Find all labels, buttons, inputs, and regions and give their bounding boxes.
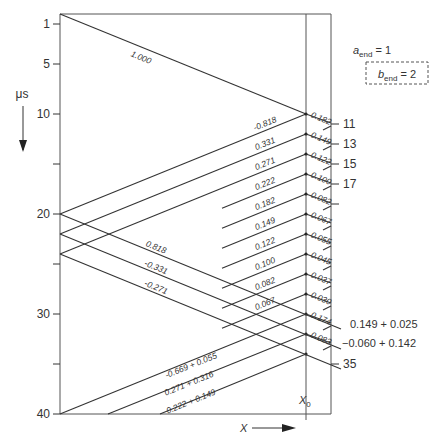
- time-tick-label: 10: [37, 107, 51, 121]
- time-arrow-icon: [19, 140, 27, 152]
- side-note: −0.060 + 0.142: [342, 337, 416, 349]
- transmitted-arrow: [323, 286, 331, 290]
- node-value-label: 0.182: [309, 110, 333, 127]
- reflected-wave-label: 0.149: [253, 215, 277, 232]
- transmitted-arrow: [323, 326, 331, 330]
- right-tick-label: 11: [343, 117, 356, 131]
- b-end-label: bend = 2: [378, 68, 416, 83]
- reflected-wave-label: 0.122: [253, 235, 277, 252]
- node-value-label: 0.082: [309, 190, 333, 207]
- reflected-wave-label: 0.182: [253, 195, 277, 212]
- node-value-label: 0.055: [309, 230, 333, 247]
- reflected-wave-label: 0.100: [253, 255, 277, 272]
- transmitted-arrow: [323, 186, 331, 190]
- reflected-wave-label: 0.222: [253, 175, 277, 192]
- transmitted-arrow: [323, 146, 331, 150]
- node-value-label: 0.174: [309, 310, 333, 327]
- node-value-label: 0.122: [309, 150, 333, 167]
- time-tick-label: 5: [43, 57, 50, 71]
- transmitted-arrow: [323, 266, 331, 270]
- transmitted-arrow: [323, 166, 331, 170]
- time-tick-label: 1: [43, 17, 50, 31]
- transmitted-arrow: [323, 246, 331, 250]
- a-end-label: aend = 1: [353, 44, 391, 59]
- node-value-label: 0.045: [309, 250, 333, 267]
- reflected-wave-label: 0.271: [253, 155, 277, 172]
- right-tick-label: 17: [343, 177, 357, 191]
- lattice-diagram: 1510203040μs11131517351.000-0.8180.3310.…: [0, 0, 437, 446]
- transmitted-arrow: [323, 206, 331, 210]
- time-unit-label: μs: [16, 87, 29, 101]
- right-tick-label: 13: [343, 137, 357, 151]
- incident-wave-label: 1.000: [129, 49, 153, 66]
- node-value-label: 0.100: [309, 170, 333, 187]
- right-tick-label: 15: [343, 157, 357, 171]
- side-note: 0.149 + 0.025: [350, 318, 418, 330]
- reflected-wave-label: 0.082: [253, 275, 277, 292]
- x-axis-arrow-icon: [282, 424, 296, 432]
- node-value-label: 0.149: [309, 130, 333, 147]
- right-tick-label: 35: [343, 357, 357, 371]
- time-tick-label: 30: [37, 307, 51, 321]
- node-value-label: 0.030: [309, 290, 333, 307]
- node-value-label: 0.083: [309, 330, 333, 347]
- reflected-wave-label: 0.331: [253, 135, 277, 152]
- time-tick-label: 20: [37, 207, 51, 221]
- transmitted-arrow: [323, 346, 331, 350]
- transmitted-arrow: [323, 126, 331, 130]
- transmitted-arrow: [323, 226, 331, 230]
- reflected-wave-down: [60, 234, 341, 349]
- reflected-wave-label: -0.818: [252, 114, 278, 132]
- x-axis-label: X: [239, 422, 248, 434]
- transmitted-arrow: [323, 306, 331, 310]
- x0-label: X0: [298, 394, 311, 409]
- incident-wave: [60, 14, 306, 114]
- node-value-label: 0.067: [309, 210, 333, 227]
- time-tick-label: 40: [37, 407, 51, 421]
- node-value-label: 0.037: [309, 270, 333, 287]
